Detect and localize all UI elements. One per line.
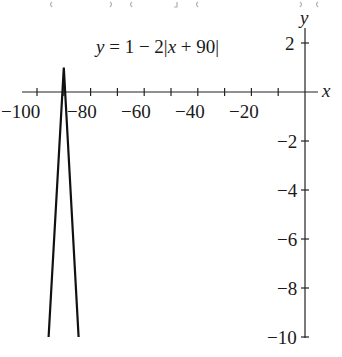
- x-tick-label: −80: [67, 101, 97, 122]
- x-axis-label: x: [321, 80, 331, 101]
- x-tick-label: −40: [175, 101, 205, 122]
- y-tick-label: 2: [285, 33, 295, 54]
- y-tick-label: −6: [277, 229, 297, 250]
- y-tick-label: −10: [267, 327, 297, 348]
- y-tick-label: −2: [277, 131, 297, 152]
- x-tick-label: −100: [1, 101, 40, 122]
- y-axis-label: y: [298, 7, 309, 28]
- x-tick-label: −60: [121, 101, 151, 122]
- equation-right: + 90|: [176, 36, 219, 57]
- chart-canvas: −100 −80 −60 −40 −20 2 −2 −4 −6 −8 −10 x…: [0, 0, 342, 357]
- y-tick-label: −4: [277, 180, 298, 201]
- x-tick-label: −20: [229, 101, 259, 122]
- equation-mid: = 1 − 2|: [104, 36, 167, 57]
- equation-label: y = 1 − 2|x + 90|: [94, 36, 219, 57]
- equation-y: y: [94, 36, 105, 57]
- top-cutoff-fragments: [51, 2, 319, 7]
- y-tick-label: −8: [277, 278, 297, 299]
